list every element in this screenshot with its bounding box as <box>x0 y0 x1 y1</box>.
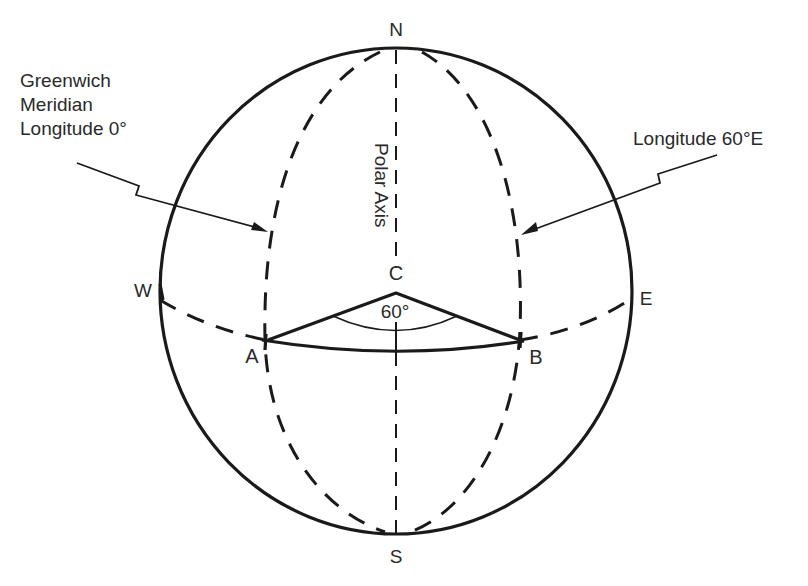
greenwich-callout-line3: Longitude 0° <box>20 118 127 139</box>
label-point-a: A <box>245 345 259 367</box>
longitude-60e-callout: Longitude 60°E <box>633 128 763 149</box>
meridian-60e <box>410 52 520 532</box>
point-b-tick <box>520 332 521 348</box>
label-north: N <box>389 19 403 40</box>
point-a-tick <box>265 334 266 350</box>
greenwich-arrowhead-icon <box>251 222 268 232</box>
label-center-c: C <box>389 262 403 284</box>
label-west: W <box>134 280 152 301</box>
equator-east-segment <box>520 298 632 340</box>
great-circle-arc-ab <box>262 340 524 351</box>
label-east: E <box>640 288 653 309</box>
longitude-60e-arrowhead-icon <box>521 222 538 235</box>
greenwich-callout-line1: Greenwich <box>20 70 111 91</box>
globe-diagram: N S W E C A B 60° Polar Axis Greenwich M… <box>0 0 808 586</box>
equator-west-segment <box>160 300 266 340</box>
label-angle: 60° <box>381 301 410 322</box>
label-point-b: B <box>529 346 542 368</box>
greenwich-meridian <box>265 52 385 532</box>
label-south: S <box>390 546 403 567</box>
label-polar-axis: Polar Axis <box>371 143 392 227</box>
greenwich-callout-line2: Meridian <box>20 94 93 115</box>
